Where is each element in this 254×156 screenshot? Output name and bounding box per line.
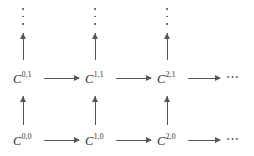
vertical-arrow-c01-to-vdots — [20, 33, 27, 60]
node-c01-base: C — [13, 72, 21, 86]
arrow-shaft — [188, 78, 220, 79]
arrow-head — [74, 137, 80, 143]
vertical-arrow-c11-to-vdots — [92, 33, 99, 60]
horizontal-arrow-c10-to-c20 — [116, 137, 151, 144]
horizontal-arrow-c21-to-hdots — [188, 75, 220, 82]
node-c00-base: C — [13, 134, 21, 148]
node-c01: C0,1 — [13, 72, 31, 86]
dot — [166, 8, 168, 10]
vertical-arrow-c21-to-vdots — [164, 33, 171, 60]
node-c21: C2,1 — [157, 72, 175, 86]
horizontal-arrow-c01-to-c11 — [44, 75, 79, 82]
arrow-shaft — [23, 33, 24, 60]
node-c20: C2,0 — [157, 134, 175, 148]
node-c20-superscript: 2,0 — [166, 132, 176, 141]
arrow-shaft — [44, 140, 79, 141]
node-c20-base: C — [157, 134, 165, 148]
arrow-head — [92, 96, 98, 102]
arrow-head — [146, 75, 152, 81]
arrow-head — [20, 96, 26, 102]
dot — [22, 8, 24, 10]
node-c01-superscript: 0,1 — [22, 70, 32, 79]
vertical-ellipsis-column-0 — [21, 8, 25, 25]
node-c00-superscript: 0,0 — [22, 132, 32, 141]
vertical-ellipsis-column-1 — [93, 8, 97, 25]
node-c11-base: C — [85, 72, 93, 86]
arrow-shaft — [95, 96, 96, 125]
arrow-shaft — [116, 78, 151, 79]
arrow-shaft — [167, 96, 168, 125]
dot — [166, 23, 168, 25]
node-c11-superscript: 1,1 — [94, 70, 104, 79]
node-c10-base: C — [85, 134, 93, 148]
dot — [22, 23, 24, 25]
node-c00: C0,0 — [13, 134, 31, 148]
arrow-shaft — [167, 33, 168, 60]
dot — [22, 16, 24, 18]
dot — [94, 16, 96, 18]
vertical-arrow-c00-to-c01 — [20, 96, 27, 125]
arrow-head — [164, 33, 170, 39]
vertical-ellipsis-column-2 — [165, 8, 169, 25]
dot — [94, 23, 96, 25]
arrow-head — [164, 96, 170, 102]
arrow-head — [74, 75, 80, 81]
node-c11: C1,1 — [85, 72, 103, 86]
horizontal-ellipsis-row-0: ⋯ — [226, 133, 241, 146]
commutative-diagram: C0,1 C1,1 C2,1 ⋯ C0,0 C1,0 C2,0 — [0, 0, 254, 156]
node-c10: C1,0 — [85, 134, 103, 148]
arrow-head — [146, 137, 152, 143]
arrow-shaft — [188, 140, 220, 141]
horizontal-arrow-c20-to-hdots — [188, 137, 220, 144]
vertical-arrow-c10-to-c11 — [92, 96, 99, 125]
horizontal-ellipsis-row-1: ⋯ — [226, 71, 241, 84]
arrow-head — [215, 137, 221, 143]
arrow-head — [20, 33, 26, 39]
dot — [94, 8, 96, 10]
arrow-shaft — [23, 96, 24, 125]
node-c21-base: C — [157, 72, 165, 86]
dot — [166, 16, 168, 18]
arrow-head — [215, 75, 221, 81]
horizontal-arrow-c11-to-c21 — [116, 75, 151, 82]
arrow-shaft — [44, 78, 79, 79]
arrow-shaft — [116, 140, 151, 141]
horizontal-arrow-c00-to-c10 — [44, 137, 79, 144]
node-c21-superscript: 2,1 — [166, 70, 176, 79]
vertical-arrow-c20-to-c21 — [164, 96, 171, 125]
arrow-head — [92, 33, 98, 39]
arrow-shaft — [95, 33, 96, 60]
node-c10-superscript: 1,0 — [94, 132, 104, 141]
